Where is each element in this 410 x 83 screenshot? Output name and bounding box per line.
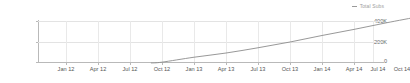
- x-axis-tick-label-jan12: Jan 12: [58, 66, 75, 73]
- y-axis-title: Total Subs: [0, 9, 2, 53]
- x-axis-tick-label-apr12: Apr 12: [90, 66, 106, 73]
- x-axis-tick-mark-jul12: [130, 63, 131, 65]
- x-axis-tick-mark-apr13: [226, 63, 227, 65]
- x-axis-tick-mark-jan12: [66, 63, 67, 65]
- series-line-path: [151, 17, 410, 63]
- x-axis-tick-mark-jan13: [194, 63, 195, 65]
- x-axis-tick-mark-apr14: [354, 63, 355, 65]
- x-axis-tick-label-apr14: Apr 14: [346, 66, 362, 73]
- x-axis-tick-label-oct12: Oct 12: [154, 66, 170, 73]
- x-axis-line: [38, 62, 384, 63]
- x-axis-tick-mark-apr12: [98, 63, 99, 65]
- x-axis-tick-mark-oct13: [290, 63, 291, 65]
- x-axis-tick-label-oct13: Oct 13: [282, 66, 298, 73]
- series-total-subs: [38, 21, 383, 62]
- x-axis-tick-label-jul14: Jul 14: [371, 66, 386, 73]
- x-axis-tick-label-jan13: Jan 13: [186, 66, 203, 73]
- x-axis-tick-label-oct14: Oct 14: [394, 66, 410, 73]
- chart-legend[interactable]: Total Subs: [352, 1, 384, 11]
- x-axis-tick-label-jul13: Jul 13: [251, 66, 266, 73]
- plot-area: [38, 21, 383, 62]
- x-axis-tick-label-jul12: Jul 12: [123, 66, 138, 73]
- legend-item-label: Total Subs: [360, 3, 384, 10]
- x-axis-tick-label-jan14: Jan 14: [314, 66, 331, 73]
- x-axis-tick-mark-jan14: [322, 63, 323, 65]
- legend-line-marker-icon: [352, 6, 357, 7]
- x-axis-tick-label-apr13: Apr 13: [218, 66, 234, 73]
- x-axis-tick-mark-oct12: [162, 63, 163, 65]
- x-axis-tick-mark-jul13: [258, 63, 259, 65]
